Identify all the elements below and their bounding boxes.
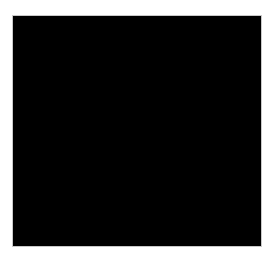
page-canvas: [0, 0, 274, 259]
image-fallback-gradient: [13, 16, 261, 246]
grayscale-image-plate[interactable]: [12, 15, 262, 247]
